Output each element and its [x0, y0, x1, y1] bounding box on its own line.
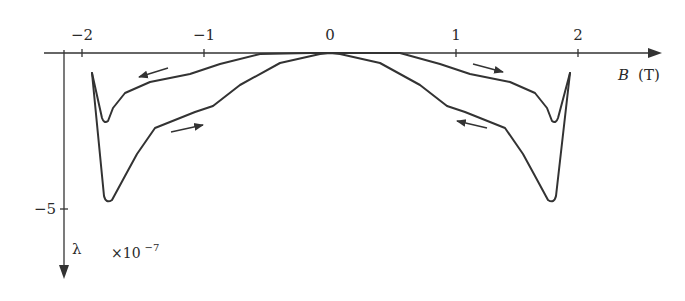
upper-branch-curve — [92, 53, 570, 122]
y-tick-label-neg5: −5 — [34, 200, 56, 218]
y-multiplier: ×10 −7 — [111, 242, 159, 261]
direction-arrows — [139, 64, 503, 132]
lower-branch-curve — [92, 53, 570, 201]
x-tick-label-2: 2 — [573, 26, 583, 44]
arrow-left-icon — [139, 68, 168, 77]
x-axis-label: B (T) — [617, 66, 660, 84]
chart-canvas: −2 −1 0 1 2 B (T) −5 λ ×10 −7 — [0, 0, 685, 301]
arrow-right-icon — [171, 125, 203, 132]
multiplier-base: ×10 — [111, 245, 141, 261]
y-axis-label: λ — [72, 240, 82, 258]
curves — [92, 53, 570, 201]
x-tick-label-1: 1 — [451, 26, 461, 44]
x-axis-arrowhead-icon — [648, 48, 662, 58]
y-axis: −5 λ ×10 −7 — [34, 50, 159, 279]
multiplier-exponent: −7 — [145, 242, 160, 253]
x-axis-var: B — [617, 66, 629, 84]
x-tick-label-neg1: −1 — [193, 26, 215, 44]
arrow-right-icon — [473, 64, 503, 72]
y-axis-arrowhead-icon — [59, 265, 69, 279]
x-axis-unit: (T) — [638, 66, 660, 84]
x-tick-label-0: 0 — [325, 26, 335, 44]
x-tick-label-neg2: −2 — [71, 26, 93, 44]
arrow-left-icon — [457, 121, 487, 128]
